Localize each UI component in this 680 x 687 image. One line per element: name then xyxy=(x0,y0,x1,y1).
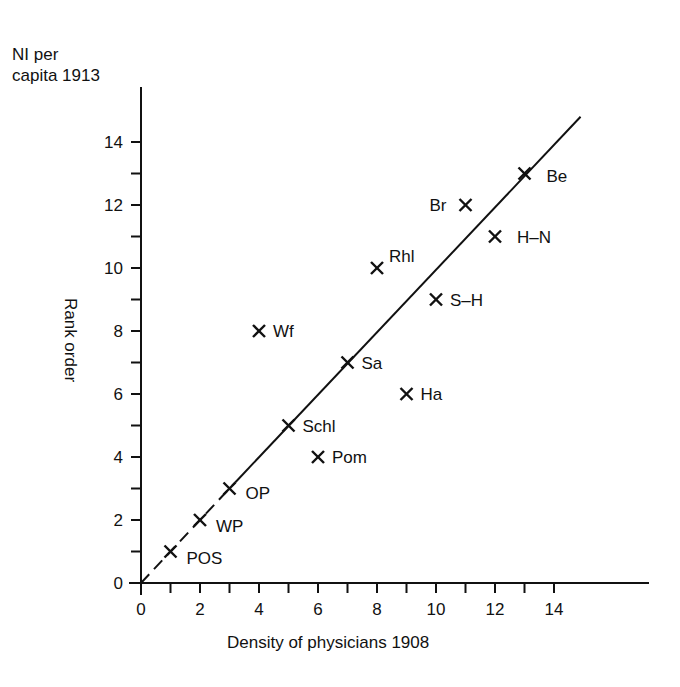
point-label: Wf xyxy=(273,322,294,341)
point-label: WP xyxy=(216,517,243,536)
data-point: Pom xyxy=(312,448,367,467)
point-label: Be xyxy=(547,167,568,186)
y-tick-label: 6 xyxy=(114,385,123,404)
point-label: Rhl xyxy=(389,247,415,266)
x-tick-label: 2 xyxy=(195,600,204,619)
data-point: Rhl xyxy=(371,247,415,274)
point-label: Pom xyxy=(332,448,367,467)
y-tick-label: 14 xyxy=(104,133,123,152)
data-point: Br xyxy=(430,196,472,215)
point-label: Schl xyxy=(303,417,336,436)
point-label: Sa xyxy=(362,354,383,373)
data-point: Be xyxy=(519,167,568,186)
point-label: POS xyxy=(187,549,223,568)
data-point: H–N xyxy=(489,228,551,247)
data-point: Schl xyxy=(283,417,336,436)
y-tick-label: 8 xyxy=(114,322,123,341)
y-tick-label: 0 xyxy=(114,574,123,593)
x-tick-label: 10 xyxy=(427,600,446,619)
data-point: POS xyxy=(165,546,223,568)
x-tick-label: 4 xyxy=(254,600,263,619)
data-point: Wf xyxy=(253,322,294,341)
x-tick-label: 14 xyxy=(545,600,564,619)
y-tick-label: 12 xyxy=(104,196,123,215)
x-tick-label: 8 xyxy=(372,600,381,619)
x-tick-label: 12 xyxy=(486,600,505,619)
data-point: WP xyxy=(194,514,243,536)
data-points: POSWPOPPomSchlHaSaWfS–HRhlH–NBrBe xyxy=(165,167,568,568)
x-tick-label: 0 xyxy=(136,600,145,619)
data-point: S–H xyxy=(430,291,483,310)
y-tick-label: 2 xyxy=(114,511,123,530)
y-tick-label: 10 xyxy=(104,259,123,278)
point-label: H–N xyxy=(517,228,551,247)
point-label: OP xyxy=(246,484,271,503)
point-label: Ha xyxy=(421,385,443,404)
scatter-chart: 0246810121402468101214 POSWPOPPomSchlHaS… xyxy=(0,0,680,687)
x-tick-label: 6 xyxy=(313,600,322,619)
point-label: S–H xyxy=(450,291,483,310)
data-point: OP xyxy=(224,483,271,503)
reference-line xyxy=(141,117,581,583)
data-point: Sa xyxy=(342,354,383,373)
data-point: Ha xyxy=(401,385,443,404)
y-tick-label: 4 xyxy=(114,448,123,467)
point-label: Br xyxy=(430,196,447,215)
